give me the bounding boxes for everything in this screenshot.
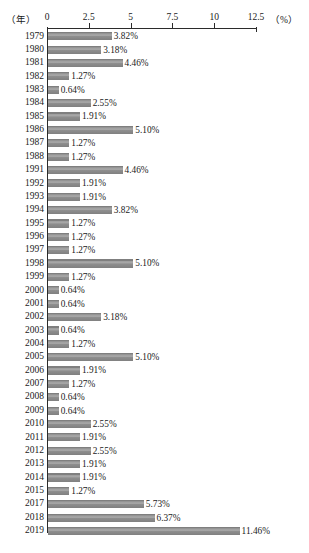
- bar-row: 19803.18%: [0, 43, 309, 56]
- bar-row: 19971.27%: [0, 244, 309, 257]
- x-axis-tick-label: 2.5: [83, 12, 95, 22]
- bar-value-label: 4.46%: [125, 58, 149, 69]
- category-label: 2018: [0, 512, 44, 523]
- bar-row: 19814.46%: [0, 57, 309, 70]
- bar-value-label: 1.91%: [82, 459, 106, 470]
- bar-row: 20151.27%: [0, 485, 309, 498]
- category-label: 2013: [0, 458, 44, 469]
- category-label: 2006: [0, 365, 44, 376]
- bar-value-label: 3.82%: [114, 205, 138, 216]
- bar-value-label: 3.82%: [114, 31, 138, 42]
- category-label: 1981: [0, 57, 44, 68]
- x-axis-tick-label: 5: [128, 12, 133, 22]
- bar-value-label: 1.27%: [71, 232, 95, 243]
- bar-row: 19931.91%: [0, 190, 309, 203]
- bar: [48, 407, 59, 415]
- bar-value-label: 1.91%: [82, 192, 106, 203]
- bar: [48, 273, 69, 281]
- bar-row: 19821.27%: [0, 70, 309, 83]
- category-label: 2014: [0, 472, 44, 483]
- category-label: 1985: [0, 111, 44, 122]
- bar-row: 20102.55%: [0, 418, 309, 431]
- category-label: 1979: [0, 31, 44, 42]
- bar-value-label: 1.91%: [82, 472, 106, 483]
- bar-row: 201911.46%: [0, 525, 309, 538]
- bar-row: 19914.46%: [0, 164, 309, 177]
- bar: [48, 487, 69, 495]
- bar-row: 20030.64%: [0, 324, 309, 337]
- bar-row: 20175.73%: [0, 498, 309, 511]
- bar: [48, 393, 59, 401]
- bar: [48, 527, 240, 535]
- bar-value-label: 1.27%: [71, 339, 95, 350]
- bar-value-label: 1.27%: [71, 245, 95, 256]
- category-label: 2011: [0, 432, 44, 443]
- bar-value-label: 1.27%: [71, 138, 95, 149]
- category-label: 1986: [0, 124, 44, 135]
- bar-row: 20010.64%: [0, 297, 309, 310]
- horizontal-bar-chart: （年） （%） 02.557.51012.5 19793.82%19803.18…: [0, 0, 309, 553]
- bar-value-label: 2.55%: [93, 446, 117, 457]
- bar: [48, 193, 80, 201]
- bar-row: 19871.27%: [0, 137, 309, 150]
- category-label: 2015: [0, 485, 44, 496]
- bar: [48, 300, 59, 308]
- category-label: 1995: [0, 218, 44, 229]
- bar-value-label: 0.64%: [61, 85, 85, 96]
- bar-value-label: 11.46%: [242, 526, 270, 537]
- bar: [48, 380, 69, 388]
- bar-row: 19985.10%: [0, 257, 309, 270]
- bar: [48, 460, 80, 468]
- bar-row: 19921.91%: [0, 177, 309, 190]
- bar-value-label: 0.64%: [61, 406, 85, 417]
- category-label: 1993: [0, 191, 44, 202]
- bar-value-label: 2.55%: [93, 419, 117, 430]
- bar-value-label: 1.27%: [71, 152, 95, 163]
- bar: [48, 219, 69, 227]
- category-label: 2000: [0, 285, 44, 296]
- bar: [48, 447, 91, 455]
- bar: [48, 313, 101, 321]
- category-label: 1994: [0, 204, 44, 215]
- category-label: 1997: [0, 244, 44, 255]
- bar: [48, 246, 69, 254]
- bar-row: 19943.82%: [0, 204, 309, 217]
- bar-value-label: 1.27%: [71, 272, 95, 283]
- bar: [48, 366, 80, 374]
- bar-row: 19793.82%: [0, 30, 309, 43]
- category-label: 2001: [0, 298, 44, 309]
- category-label: 2005: [0, 351, 44, 362]
- x-axis-tick-label: 10: [209, 12, 219, 22]
- bar: [48, 32, 112, 40]
- bar-value-label: 1.27%: [71, 71, 95, 82]
- bar-value-label: 3.18%: [103, 312, 127, 323]
- category-label: 2002: [0, 311, 44, 322]
- bar: [48, 286, 59, 294]
- bar-row: 20186.37%: [0, 511, 309, 524]
- x-axis-tick-label: 7.5: [166, 12, 178, 22]
- bar: [48, 46, 101, 54]
- bar: [48, 126, 133, 134]
- bar: [48, 259, 133, 267]
- bar-value-label: 2.55%: [93, 98, 117, 109]
- y-axis-unit-label: （年）: [6, 12, 36, 26]
- category-label: 2004: [0, 338, 44, 349]
- bar: [48, 433, 80, 441]
- category-label: 2017: [0, 498, 44, 509]
- bar-row: 20000.64%: [0, 284, 309, 297]
- bar-row: 20090.64%: [0, 404, 309, 417]
- bar-row: 19881.27%: [0, 150, 309, 163]
- bar-row: 19842.55%: [0, 97, 309, 110]
- bar: [48, 420, 91, 428]
- bar-row: 20041.27%: [0, 338, 309, 351]
- bar-value-label: 5.10%: [135, 352, 159, 363]
- bar-value-label: 5.10%: [135, 258, 159, 269]
- bar: [48, 326, 59, 334]
- category-label: 1999: [0, 271, 44, 282]
- bar-row: 20061.91%: [0, 364, 309, 377]
- bar: [48, 353, 133, 361]
- bar: [48, 473, 80, 481]
- bar-row: 20111.91%: [0, 431, 309, 444]
- bar-row: 20122.55%: [0, 444, 309, 457]
- bar-value-label: 3.18%: [103, 45, 127, 56]
